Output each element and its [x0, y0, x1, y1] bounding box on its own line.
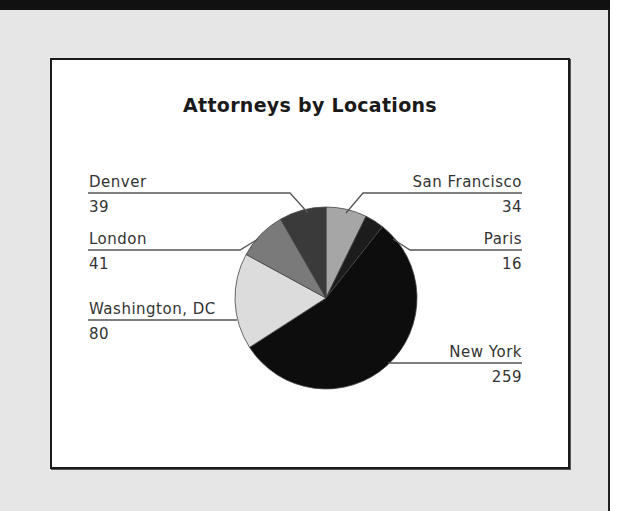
label-san-francisco-name: San Francisco [412, 173, 522, 191]
label-paris-value: 16 [502, 255, 522, 273]
label-new-york-name: New York [449, 343, 522, 361]
label-denver-value: 39 [89, 198, 109, 216]
leader-line-san-francisco [346, 193, 522, 213]
pie-slices [235, 207, 417, 389]
label-washington-value: 80 [89, 325, 109, 343]
label-washington-name: Washington, DC [89, 300, 216, 318]
label-london-value: 41 [89, 255, 109, 273]
label-denver-name: Denver [89, 173, 147, 191]
label-san-francisco-value: 34 [502, 198, 522, 216]
label-paris-name: Paris [484, 230, 522, 248]
label-london-name: London [89, 230, 147, 248]
leader-line-denver [88, 193, 308, 213]
label-new-york-value: 259 [492, 368, 522, 386]
